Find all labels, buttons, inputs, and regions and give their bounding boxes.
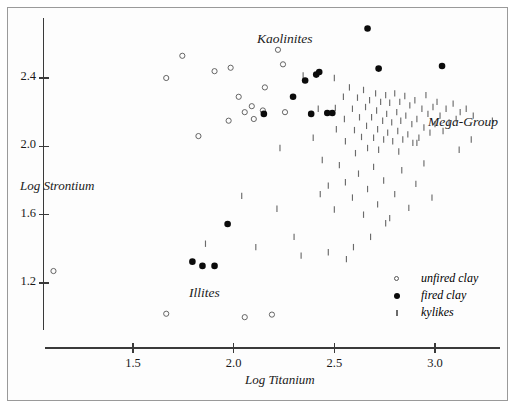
legend-label: fired clay — [421, 288, 466, 303]
legend-item-fired-clay: fired clay — [394, 288, 504, 305]
series-fired-clay — [189, 25, 445, 269]
legend-item-unfired-clay: unfired clay — [394, 271, 504, 288]
legend: unfired clay fired clay kylikes — [394, 271, 504, 327]
y-tick-label: 1.6 — [0, 206, 36, 221]
x-axis-label: Log Titanium — [245, 372, 315, 388]
legend-label: unfired clay — [421, 271, 478, 286]
annotation-kaolinites: Kaolinites — [257, 31, 313, 47]
x-tick-label: 2.5 — [318, 356, 350, 371]
axis-ticks — [39, 78, 436, 353]
series-kylikes — [205, 72, 492, 262]
filled-circle-icon — [394, 293, 404, 303]
y-tick-label: 2.4 — [0, 69, 36, 84]
legend-item-kylikes: kylikes — [394, 305, 504, 322]
y-tick-label: 1.2 — [0, 274, 36, 289]
annotation-illites: Illites — [189, 285, 220, 301]
annotation-mega-group: Mega-Group — [428, 114, 498, 130]
legend-label: kylikes — [421, 305, 454, 320]
x-tick-label: 3.0 — [419, 356, 451, 371]
y-axis-label: Log Strontium — [20, 178, 94, 194]
y-tick-label: 2.0 — [0, 137, 36, 152]
scatter-plot-figure: 1.2 1.6 2.0 2.4 1.5 2.0 2.5 3.0 Log Stro… — [0, 0, 517, 413]
x-tick-label: 2.0 — [218, 356, 250, 371]
open-circle-icon — [394, 276, 404, 286]
x-tick-label: 1.5 — [117, 356, 149, 371]
vertical-tick-icon — [394, 310, 404, 320]
plot-canvas — [0, 0, 517, 413]
